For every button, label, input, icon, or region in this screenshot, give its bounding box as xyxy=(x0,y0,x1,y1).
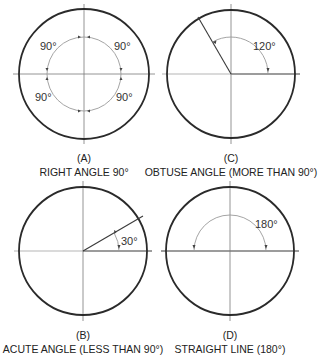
figure-c-obtuse-angle: 120° (C) OBTUSE ANGLE (MORE THAN 90°) xyxy=(145,4,318,178)
angles-diagram: 90° 90° 90° 90° (A) RIGHT ANGLE 90° 120°… xyxy=(0,0,319,364)
figure-caption: OBTUSE ANGLE (MORE THAN 90°) xyxy=(145,166,318,178)
arrowhead xyxy=(267,68,270,72)
figure-b-acute-angle: 30° (B) ACUTE ANGLE (LESS THAN 90°) xyxy=(3,181,163,355)
figure-letter: (D) xyxy=(223,329,238,341)
angle-label: 90° xyxy=(116,91,133,103)
angle-arc xyxy=(114,233,119,251)
arrowhead xyxy=(265,245,268,249)
angle-label: 90° xyxy=(40,40,57,52)
arrowhead xyxy=(193,245,196,249)
angle-label: 120° xyxy=(253,40,276,52)
angle-label: 90° xyxy=(114,40,131,52)
figure-letter: (B) xyxy=(76,329,90,341)
figure-caption: RIGHT ANGLE 90° xyxy=(39,166,128,178)
figure-letter: (A) xyxy=(77,152,91,164)
angle-label: 90° xyxy=(35,91,52,103)
angle-label: 180° xyxy=(255,218,278,230)
angle-label: 30° xyxy=(121,235,138,247)
figure-letter: (C) xyxy=(224,152,239,164)
figure-caption: STRAIGHT LINE (180°) xyxy=(175,343,286,355)
figure-d-straight-line: 180° (D) STRAIGHT LINE (180°) xyxy=(161,181,299,355)
figure-a-right-angle: 90° 90° 90° 90° (A) RIGHT ANGLE 90° xyxy=(13,4,155,178)
angle-ray-120 xyxy=(198,17,231,74)
figure-caption: ACUTE ANGLE (LESS THAN 90°) xyxy=(3,343,163,355)
